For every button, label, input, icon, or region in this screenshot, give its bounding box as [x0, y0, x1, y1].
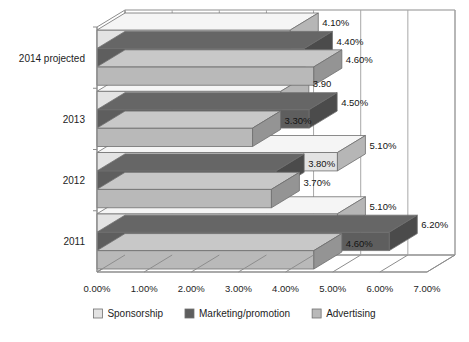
value-label-0-0: 5.10%	[369, 201, 396, 212]
bar-front-face	[97, 128, 253, 146]
x-axis-label-7: 7.00%	[414, 283, 441, 294]
bar-top-face	[97, 31, 332, 48]
x-axis-label-0: 0.00%	[84, 283, 111, 294]
bar-top-face	[97, 154, 304, 171]
axis-tick-5	[333, 255, 361, 272]
legend-label-2: Advertising	[326, 308, 375, 319]
bar-top-face	[97, 111, 281, 128]
value-label-2-0: 3.90	[313, 78, 332, 89]
bar-2-2	[97, 111, 281, 146]
bar-front-face	[97, 251, 314, 269]
bar-top-face	[97, 50, 342, 67]
legend-item-1[interactable]: Marketing/promotion	[185, 308, 290, 319]
legend-swatch-0	[93, 309, 102, 318]
bar-chart: 5.10%6.20%4.60%5.10%3.80%3.70%3.904.50%3…	[0, 0, 469, 342]
bar-top-face	[97, 13, 318, 30]
value-label-3-1: 4.40%	[336, 36, 363, 47]
axis-tick-6	[380, 255, 408, 272]
x-axis-label-5: 5.00%	[319, 283, 346, 294]
x-axis-label-4: 4.00%	[272, 283, 299, 294]
value-label-2-2: 3.30%	[285, 115, 312, 126]
y-axis-category-label-3: 2014 projected	[19, 53, 85, 64]
value-label-0-1: 6.20%	[421, 219, 448, 230]
bar-front-face	[97, 67, 314, 85]
legend-item-0[interactable]: Sponsorship	[93, 308, 163, 319]
legend-label-0: Sponsorship	[107, 308, 163, 319]
bar-front-face	[97, 189, 271, 207]
x-axis-label-1: 1.00%	[131, 283, 158, 294]
x-axis-label-2: 2.00%	[178, 283, 205, 294]
x-axis-label-6: 6.00%	[366, 283, 393, 294]
legend-swatch-1	[185, 309, 194, 318]
value-label-1-1: 3.80%	[308, 158, 335, 169]
value-label-3-0: 4.10%	[322, 17, 349, 28]
bar-1-2	[97, 172, 299, 207]
bar-0-2	[97, 234, 342, 269]
value-label-1-2: 3.70%	[303, 177, 330, 188]
bar-3-2	[97, 50, 342, 85]
bar-top-face	[97, 93, 337, 110]
axis-tick-7	[427, 255, 455, 272]
y-axis-category-label-0: 2011	[63, 236, 85, 247]
value-label-0-2: 4.60%	[346, 238, 373, 249]
legend-swatch-2	[312, 309, 321, 318]
bar-top-face	[97, 215, 417, 232]
x-axis-label-3: 3.00%	[225, 283, 252, 294]
value-label-1-0: 5.10%	[369, 140, 396, 151]
bar-top-face	[97, 172, 299, 189]
value-label-3-2: 4.60%	[346, 54, 373, 65]
y-axis-category-label-2: 2013	[63, 114, 86, 125]
legend-item-2[interactable]: Advertising	[312, 308, 375, 319]
chart-legend: SponsorshipMarketing/promotionAdvertisin…	[93, 308, 375, 319]
legend-label-1: Marketing/promotion	[199, 308, 290, 319]
bar-top-face	[97, 234, 342, 251]
y-axis-category-label-1: 2012	[63, 175, 86, 186]
chart-canvas: 5.10%6.20%4.60%5.10%3.80%3.70%3.904.50%3…	[0, 0, 469, 342]
value-label-2-1: 4.50%	[341, 97, 368, 108]
